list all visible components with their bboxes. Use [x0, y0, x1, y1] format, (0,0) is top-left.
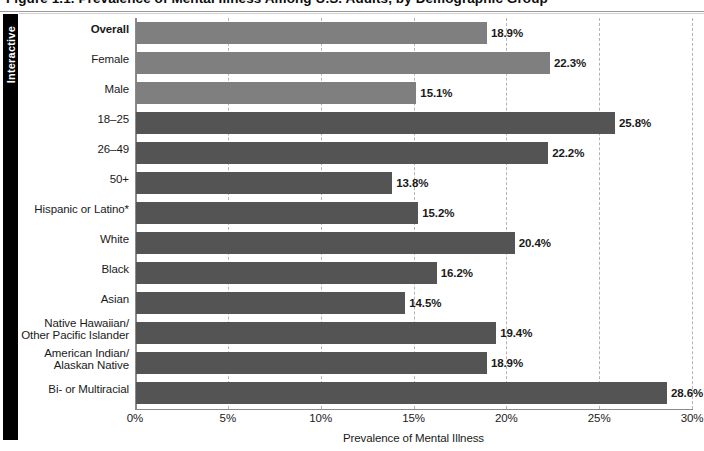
bar-row[interactable]: 16.2%	[135, 258, 692, 288]
bar-row[interactable]: 14.5%	[135, 288, 692, 318]
caption-divider	[0, 11, 704, 12]
category-label: Male	[104, 83, 129, 96]
bar[interactable]	[136, 82, 416, 104]
category-label: 26–49	[98, 143, 129, 156]
bar[interactable]	[136, 322, 496, 344]
bar-row[interactable]: 22.2%	[135, 138, 692, 168]
bar[interactable]	[136, 232, 515, 254]
figure-page: Figure 1.1. Prevalence of Mental Illness…	[0, 0, 704, 451]
gridline-30%	[692, 18, 693, 409]
category-label: Hispanic or Latino*	[34, 203, 129, 216]
bar-value-label: 25.8%	[619, 117, 651, 129]
bar-row[interactable]: 15.1%	[135, 78, 692, 108]
bar-row[interactable]: 25.8%	[135, 108, 692, 138]
x-axis-line	[135, 409, 693, 410]
x-tick-label: 25%	[588, 412, 611, 424]
bar-row[interactable]: 18.9%	[135, 348, 692, 378]
bar-row[interactable]: 20.4%	[135, 228, 692, 258]
bar-value-label: 14.5%	[409, 297, 441, 309]
x-tick-label: 0%	[127, 412, 143, 424]
figure-caption-text: Figure 1.1. Prevalence of Mental Illness…	[6, 0, 548, 6]
bar-value-label: 22.3%	[554, 57, 586, 69]
bar[interactable]	[136, 292, 405, 314]
bar-row[interactable]: 28.6%	[135, 378, 692, 408]
category-label: Female	[91, 53, 129, 66]
bar-value-label: 18.9%	[491, 357, 523, 369]
interactive-sidebar-tab[interactable]: Interactive	[3, 14, 18, 440]
bar-row[interactable]: 22.3%	[135, 48, 692, 78]
x-axis-title: Prevalence of Mental Illness	[135, 432, 692, 444]
category-label: White	[100, 233, 129, 246]
bar-value-label: 28.6%	[671, 387, 703, 399]
bar[interactable]	[136, 382, 667, 404]
bar-value-label: 13.8%	[396, 177, 428, 189]
figure-caption: Figure 1.1. Prevalence of Mental Illness…	[0, 0, 704, 11]
x-tick-label: 20%	[495, 412, 518, 424]
bar[interactable]	[136, 142, 548, 164]
bar-value-label: 16.2%	[441, 267, 473, 279]
bar-value-label: 22.2%	[552, 147, 584, 159]
bar-value-label: 15.2%	[422, 207, 454, 219]
category-label: American Indian/ Alaskan Native	[44, 347, 129, 372]
x-tick-label: 30%	[681, 412, 704, 424]
category-axis-labels: OverallFemaleMale18–2526–4950+Hispanic o…	[19, 13, 129, 409]
bar[interactable]	[136, 112, 615, 134]
bar[interactable]	[136, 172, 392, 194]
category-label: Black	[101, 263, 129, 276]
bar-value-label: 15.1%	[420, 87, 452, 99]
category-label: 18–25	[98, 113, 129, 126]
plot-area: Prevalence of Mental Illness 0%5%10%15%2…	[135, 13, 692, 409]
x-tick-label: 10%	[309, 412, 332, 424]
bar-value-label: 20.4%	[519, 237, 551, 249]
x-tick-label: 5%	[220, 412, 236, 424]
bar-row[interactable]: 13.8%	[135, 168, 692, 198]
category-label: Bi- or Multiracial	[48, 383, 129, 396]
x-tick-label: 15%	[402, 412, 425, 424]
bar[interactable]	[136, 202, 418, 224]
interactive-tab-label: Interactive	[5, 26, 17, 83]
bar[interactable]	[136, 52, 550, 74]
bar-row[interactable]: 18.9%	[135, 18, 692, 48]
bar[interactable]	[136, 262, 437, 284]
category-label: 50+	[110, 173, 129, 186]
chart-panel: OverallFemaleMale18–2526–4950+Hispanic o…	[19, 13, 704, 451]
bar[interactable]	[136, 22, 487, 44]
bar-row[interactable]: 19.4%	[135, 318, 692, 348]
category-label: Overall	[91, 23, 129, 36]
category-label: Native Hawaiian/ Other Pacific Islander	[21, 317, 129, 342]
bar-row[interactable]: 15.2%	[135, 198, 692, 228]
bar[interactable]	[136, 352, 487, 374]
bar-value-label: 19.4%	[500, 327, 532, 339]
bar-value-label: 18.9%	[491, 27, 523, 39]
category-label: Asian	[101, 293, 129, 306]
